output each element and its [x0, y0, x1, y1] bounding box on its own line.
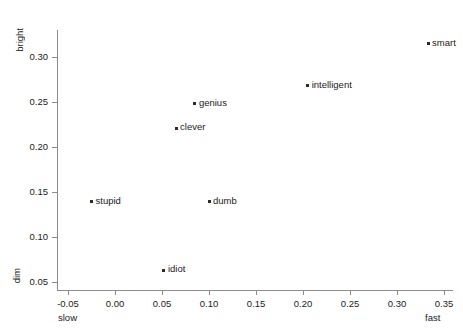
x-tick-label: 0.00	[95, 298, 135, 309]
data-point-label: clever	[180, 121, 205, 133]
y-axis-line	[57, 30, 58, 290]
y-axis-high-label: bright	[14, 28, 25, 52]
plot-area: 0.050.100.150.200.250.30 -0.050.000.050.…	[0, 0, 463, 336]
x-tick-mark	[162, 290, 163, 295]
y-tick-mark	[52, 57, 57, 58]
data-point-marker	[193, 102, 196, 105]
y-tick-mark	[52, 192, 57, 193]
x-tick-mark	[444, 290, 445, 295]
data-point-label: smart	[432, 37, 456, 49]
x-tick-mark	[397, 290, 398, 295]
scatter-plot-figure: 0.050.100.150.200.250.30 -0.050.000.050.…	[0, 0, 463, 336]
x-tick-label: 0.10	[189, 298, 229, 309]
data-point-marker	[90, 200, 93, 203]
x-tick-mark	[68, 290, 69, 295]
y-tick-label: 0.15	[0, 186, 48, 197]
data-point-label: idiot	[168, 263, 185, 275]
data-point-label: stupid	[96, 195, 121, 207]
x-axis-line	[57, 290, 453, 291]
data-point-marker	[306, 84, 309, 87]
data-point-marker	[427, 42, 430, 45]
y-tick-mark	[52, 237, 57, 238]
y-tick-mark	[52, 102, 57, 103]
y-tick-label: 0.25	[0, 96, 48, 107]
x-tick-label: -0.05	[48, 298, 88, 309]
x-tick-label: 0.35	[424, 298, 463, 309]
x-tick-label: 0.20	[283, 298, 323, 309]
y-tick-label: 0.30	[0, 51, 48, 62]
x-tick-label: 0.15	[236, 298, 276, 309]
y-tick-label: 0.10	[0, 231, 48, 242]
data-point-marker	[162, 269, 165, 272]
x-axis-low-label: slow	[58, 312, 77, 323]
x-tick-mark	[209, 290, 210, 295]
data-point-label: genius	[199, 97, 227, 109]
y-axis-low-label: dim	[11, 268, 22, 283]
data-point-marker	[208, 200, 211, 203]
data-point-label: dumb	[213, 195, 237, 207]
x-tick-mark	[303, 290, 304, 295]
x-tick-mark	[256, 290, 257, 295]
x-tick-label: 0.25	[330, 298, 370, 309]
x-tick-label: 0.30	[377, 298, 417, 309]
y-tick-mark	[52, 282, 57, 283]
x-axis-high-label: fast	[425, 312, 440, 323]
x-tick-label: 0.05	[142, 298, 182, 309]
data-point-label: intelligent	[312, 79, 352, 91]
x-tick-mark	[115, 290, 116, 295]
x-tick-mark	[350, 290, 351, 295]
y-tick-label: 0.05	[0, 276, 48, 287]
y-tick-mark	[52, 147, 57, 148]
data-point-marker	[175, 127, 178, 130]
y-tick-label: 0.20	[0, 141, 48, 152]
